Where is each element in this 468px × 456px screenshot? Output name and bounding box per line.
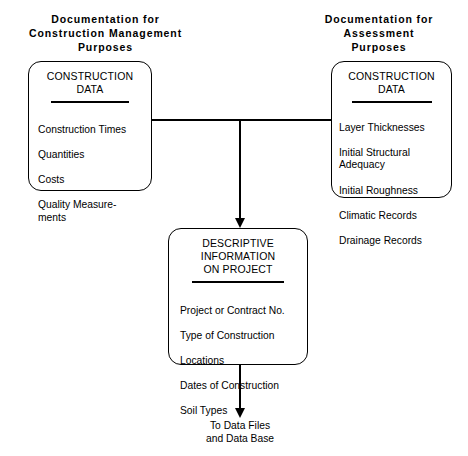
node-assessment-data: CONSTRUCTION DATA Layer Thicknesses Init… [331, 61, 452, 198]
node-divider-rule [352, 101, 432, 103]
node-heading: CONSTRUCTION DATA [29, 62, 151, 96]
node-divider-rule [192, 281, 284, 283]
list-item: Type of Construction [180, 330, 307, 343]
heading-construction-management: Documentation for Construction Managemen… [8, 12, 203, 54]
list-item: Costs [38, 174, 151, 187]
connector-horizontal-bus [151, 119, 332, 121]
list-item: Construction Times [38, 124, 151, 137]
list-item: Dates of Construction [180, 380, 307, 393]
node-item-list: Construction Times Quantities Costs Qual… [38, 111, 151, 237]
list-item: Initial Roughness [339, 185, 451, 198]
list-item: Quality Measure- ments [38, 199, 151, 224]
node-heading: CONSTRUCTION DATA [332, 62, 451, 96]
list-item: Locations [180, 355, 307, 368]
list-item: Quantities [38, 149, 151, 162]
node-item-list: Layer Thicknesses Initial Structural Ade… [339, 109, 451, 260]
heading-assessment: Documentation for Assessment Purposes [296, 12, 462, 54]
connector-to-descriptive [239, 119, 241, 220]
list-item: Layer Thicknesses [339, 122, 451, 135]
list-item: Initial Structural Adequacy [339, 147, 451, 172]
list-item: Drainage Records [339, 235, 451, 248]
node-divider-rule [51, 101, 129, 103]
node-item-list: Project or Contract No. Type of Construc… [180, 292, 307, 431]
list-item: Soil Types [180, 405, 307, 418]
node-construction-management-data: CONSTRUCTION DATA Construction Times Qua… [28, 61, 152, 191]
list-item: Climatic Records [339, 210, 451, 223]
list-item: Project or Contract No. [180, 305, 307, 318]
node-descriptive-information: DESCRIPTIVE INFORMATION ON PROJECT Proje… [168, 228, 308, 365]
flow-diagram-canvas: Documentation for Construction Managemen… [0, 0, 468, 456]
node-heading: DESCRIPTIVE INFORMATION ON PROJECT [169, 229, 307, 276]
arrowhead-to-descriptive [235, 218, 245, 228]
